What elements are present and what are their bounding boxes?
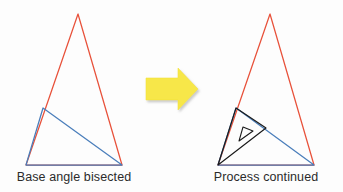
process-continued-diagram <box>218 14 314 165</box>
right-arrow-icon <box>146 68 198 110</box>
left-diagram-caption: Base angle bisected <box>10 170 138 184</box>
geometry-figure <box>0 0 343 192</box>
right-diagram-caption: Process continued <box>202 170 330 184</box>
right-red-triangle <box>218 14 314 165</box>
left-red-triangle <box>26 14 122 165</box>
base-angle-bisected-diagram <box>26 14 122 165</box>
diagram-canvas: Base angle bisected Process continued <box>0 0 343 192</box>
right-inner-black-triangle <box>239 127 253 141</box>
right-black-triangle <box>218 108 266 165</box>
arrow-shape <box>146 68 198 110</box>
